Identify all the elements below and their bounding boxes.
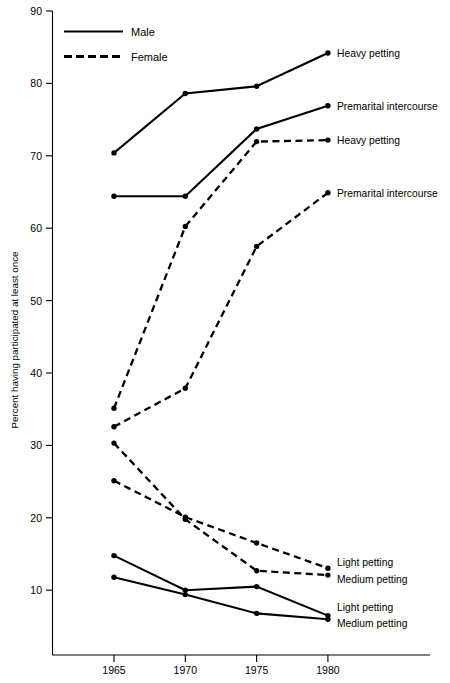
data-point [111,406,116,411]
legend: Male Female [64,26,168,63]
series-female-light-petting: Light petting [111,478,393,571]
data-point [111,424,116,429]
y-ticks-group: 90 80 70 60 50 40 30 20 10 [30,5,52,596]
y-tick-label-10: 10 [30,584,42,596]
data-point [254,244,259,249]
x-tick-label-1980: 1980 [316,664,340,676]
data-point [325,566,330,571]
series-female-premarital-intercourse: Premarital intercourse [111,188,438,430]
data-point [111,478,116,483]
series-line [114,481,328,569]
series-female-heavy-petting: Heavy petting [111,135,400,411]
data-point [325,572,330,577]
y-tick-label-20: 20 [30,512,42,524]
series-line [114,577,328,619]
y-tick-label-90: 90 [30,5,42,17]
data-point [111,553,116,558]
series-end-label-female-premarital-intercourse: Premarital intercourse [337,188,438,199]
data-point [183,514,188,519]
line-chart: 90 80 70 60 50 40 30 20 10 1965 1970 [0,0,450,683]
data-point [111,440,116,445]
data-point [325,190,330,195]
x-tick-label-1965: 1965 [102,664,126,676]
data-point [111,194,116,199]
series-line [114,106,328,197]
data-point [254,568,259,573]
y-tick-label-50: 50 [30,295,42,307]
data-point [183,194,188,199]
series-end-label-female-light-petting: Light petting [337,557,393,568]
series-end-label-male-medium-petting: Medium petting [337,618,408,629]
data-point [254,584,259,589]
x-tick-label-1975: 1975 [245,664,269,676]
data-point [325,137,330,142]
data-point [183,91,188,96]
data-point [325,50,330,55]
legend-label-female: Female [131,51,168,63]
data-point [183,592,188,597]
data-point [254,126,259,131]
y-tick-label-40: 40 [30,367,42,379]
data-point [183,386,188,391]
series-line [114,193,328,427]
y-tick-label-80: 80 [30,77,42,89]
data-point [254,540,259,545]
y-axis-title: Percent having participated at least onc… [9,251,20,429]
data-point [183,224,188,229]
data-point [254,84,259,89]
data-point [111,150,116,155]
series-end-label-female-heavy-petting: Heavy petting [337,135,400,146]
data-point [325,617,330,622]
data-point [325,103,330,108]
series-end-label-male-premarital-intercourse: Premarital intercourse [337,101,438,112]
data-point [111,575,116,580]
legend-label-male: Male [131,26,155,38]
x-ticks-group: 1965 1970 1975 1980 [102,655,339,676]
data-point [254,611,259,616]
y-tick-label-70: 70 [30,150,42,162]
y-tick-label-60: 60 [30,222,42,234]
series-line [114,443,328,575]
series-end-label-male-light-petting: Light petting [337,602,393,613]
y-tick-label-30: 30 [30,439,42,451]
series-end-label-male-heavy-petting: Heavy petting [337,48,400,59]
series-end-label-female-medium-petting: Medium petting [337,574,408,585]
series-line [114,140,328,408]
x-tick-label-1970: 1970 [174,664,198,676]
data-point [254,139,259,144]
series-line [114,53,328,153]
chart-canvas: 90 80 70 60 50 40 30 20 10 1965 1970 [0,0,450,683]
